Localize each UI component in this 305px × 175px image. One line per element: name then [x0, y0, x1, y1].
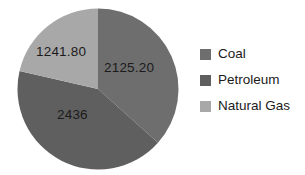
- legend-label-natural-gas: Natural Gas: [218, 99, 290, 113]
- legend-item-coal[interactable]: Coal: [200, 47, 303, 61]
- pie-graphic: [0, 0, 195, 175]
- pie-label-natural-gas: 1241.80: [36, 44, 86, 59]
- legend-swatch-coal: [200, 49, 211, 60]
- legend-label-petroleum: Petroleum: [218, 73, 280, 87]
- legend-swatch-natural-gas: [200, 101, 211, 112]
- legend-swatch-petroleum: [200, 75, 211, 86]
- pie-label-coal: 2125.20: [104, 60, 154, 75]
- legend-item-natural-gas[interactable]: Natural Gas: [200, 99, 303, 113]
- pie-chart: 2125.20 2436 1241.80 Coal Petroleum Natu…: [0, 0, 305, 175]
- legend-label-coal: Coal: [218, 47, 246, 61]
- pie-label-petroleum: 2436: [57, 107, 88, 122]
- legend: Coal Petroleum Natural Gas: [200, 47, 303, 113]
- pie-plot-area: 2125.20 2436 1241.80: [0, 0, 195, 175]
- legend-item-petroleum[interactable]: Petroleum: [200, 73, 303, 87]
